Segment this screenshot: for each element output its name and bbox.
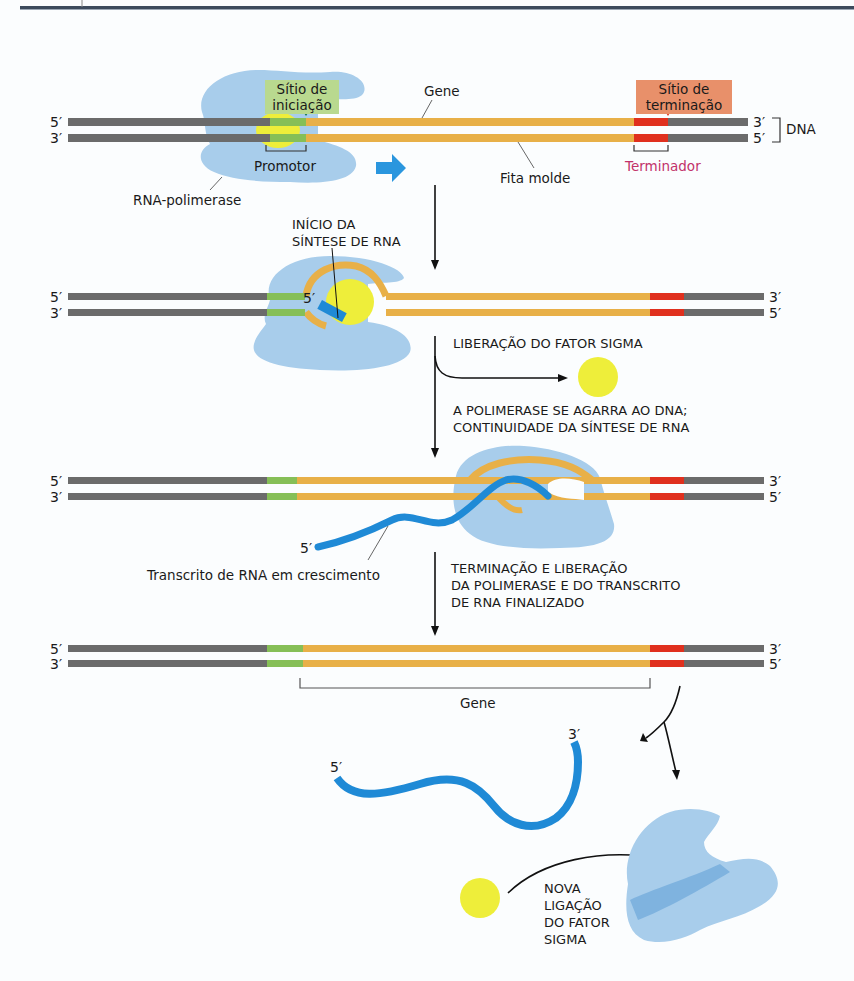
step-termination-line1: TERMINAÇÃO E LIBERAÇÃO — [451, 560, 627, 577]
row4-left-bottom-end: 3′ — [50, 657, 62, 671]
direction-arrow-icon — [376, 154, 406, 182]
row2-right-bottom-end: 5′ — [769, 306, 781, 320]
step-rna-synthesis-start-line1: INÍCIO DA — [292, 216, 355, 233]
row3-rna-5prime-end: 5′ — [300, 541, 312, 555]
dna-flank-right-top — [668, 118, 748, 126]
released-rna-transcript — [337, 742, 578, 826]
split-arrow-polymerase-icon — [672, 770, 680, 780]
released-rna-5prime-end: 5′ — [330, 760, 342, 774]
step-termination-line3: DE RNA FINALIZADO — [451, 594, 584, 611]
row4-terminated-dna — [68, 645, 764, 688]
step-arrow-icon — [431, 626, 439, 636]
step-polymerase-grips-line1: A POLIMERASE SE AGARRA AO DNA; — [453, 402, 687, 419]
released-sigma-factor — [578, 357, 618, 397]
row4-gene-label: Gene — [460, 695, 496, 712]
rebind-label-line4: SIGMA — [544, 931, 586, 948]
step-arrow-icon — [431, 260, 439, 270]
row3-elongation — [68, 446, 764, 560]
header-rule — [20, 6, 854, 9]
dna-flank-left-top — [68, 118, 270, 126]
growing-transcript-label: Transcrito de RNA em crescimento — [147, 567, 380, 584]
polymerase-leader-line — [210, 177, 222, 190]
sigma-factor — [256, 112, 300, 148]
row3-left-bottom-end: 3′ — [50, 490, 62, 504]
rna-polymerase-label: RNA-polimerase — [133, 192, 241, 209]
step-arrow-icon — [431, 448, 439, 458]
row2-rna-synthesis-start — [68, 248, 764, 370]
rebind-label-line3: DO FATOR — [544, 914, 610, 931]
diagram-graphics — [0, 0, 854, 981]
row2-left-top-end: 5′ — [50, 290, 62, 304]
row2-rna-5prime-end: 5′ — [303, 291, 315, 305]
released-rna-polymerase — [626, 809, 778, 942]
step-rna-synthesis-start-line2: SÍNTESE DE RNA — [292, 233, 401, 250]
template-leader-line — [518, 142, 534, 168]
row4-left-top-end: 5′ — [50, 642, 62, 656]
gene-leader-line — [422, 100, 432, 118]
template-strand-label: Fita molde — [500, 170, 570, 187]
dna-bracket — [772, 118, 780, 142]
transcription-diagram: Sítio de iniciação Sítio de terminação G… — [0, 0, 854, 981]
row3-right-bottom-end: 5′ — [769, 490, 781, 504]
release-arrow-icon — [558, 374, 568, 382]
rebind-label-line1: NOVA — [544, 880, 581, 897]
sigma-factor — [326, 279, 374, 325]
released-rna-3prime-end: 3′ — [568, 727, 580, 741]
row2-right-top-end: 3′ — [769, 290, 781, 304]
terminator-top — [634, 118, 668, 126]
row2-left-bottom-end: 3′ — [50, 306, 62, 320]
step-termination-line2: DA POLIMERASE E DO TRANSCRITO — [451, 577, 681, 594]
row3-right-top-end: 3′ — [769, 474, 781, 488]
row1-right-top-end: 3′ — [753, 115, 765, 129]
terminator-label: Terminador — [625, 158, 701, 175]
row1-left-top-end: 5′ — [50, 115, 62, 129]
row4-right-top-end: 3′ — [769, 642, 781, 656]
free-sigma-factor — [460, 878, 500, 918]
step-polymerase-grips-line2: CONTINUIDADE DA SÍNTESE DE RNA — [453, 419, 689, 436]
promoter-top — [270, 118, 306, 126]
step-sigma-release: LIBERAÇÃO DO FATOR SIGMA — [453, 335, 643, 352]
gene-top — [306, 118, 634, 126]
termination-site-box: Sítio de terminação — [636, 80, 732, 114]
row3-left-top-end: 5′ — [50, 474, 62, 488]
gene-label: Gene — [424, 83, 460, 100]
terminator-bracket — [634, 145, 668, 151]
row4-right-bottom-end: 5′ — [769, 657, 781, 671]
rebind-label-line2: LIGAÇÃO — [544, 897, 602, 914]
row1-right-bottom-end: 5′ — [753, 131, 765, 145]
initiation-site-box: Sítio de iniciação — [265, 80, 339, 114]
promoter-label: Promotor — [254, 158, 316, 175]
dna-label: DNA — [786, 121, 816, 138]
gene-bracket — [300, 678, 650, 688]
row1-left-bottom-end: 3′ — [50, 131, 62, 145]
